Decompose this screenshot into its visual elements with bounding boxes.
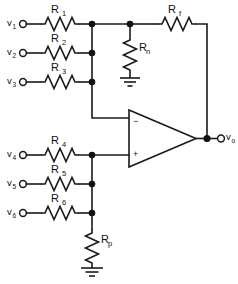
input-branch-v3: R 3 v 3 xyxy=(7,61,92,89)
junction-dot-output xyxy=(203,135,210,142)
resistor-label-r6: R xyxy=(51,192,59,204)
resistor-label-r4: R xyxy=(51,134,59,146)
input-sublabel-v6: 6 xyxy=(13,212,17,219)
output-sublabel: o xyxy=(232,137,236,144)
input-label-v4: v xyxy=(7,148,12,159)
component-rn: R n xyxy=(120,21,150,86)
input-sublabel-v4: 4 xyxy=(13,154,17,161)
input-sublabel-v2: 2 xyxy=(13,52,17,59)
junction-dot-v2 xyxy=(89,50,96,57)
resistor-label-r5: R xyxy=(51,163,59,175)
resistor-label-r1: R xyxy=(51,3,59,15)
resistor-label-rf: R xyxy=(168,3,176,15)
resistor-r1 xyxy=(41,18,79,31)
input-label-v1: v xyxy=(7,17,12,28)
input-label-v5: v xyxy=(7,177,12,188)
input-sublabel-v3: 3 xyxy=(13,81,17,88)
resistor-sublabel-r4: 4 xyxy=(62,140,66,149)
op-amp-inverting-sign: − xyxy=(133,116,138,126)
input-sublabel-v5: 5 xyxy=(13,183,17,190)
resistor-sublabel-rf: f xyxy=(179,9,182,18)
resistor-sublabel-r1: 1 xyxy=(62,9,66,18)
junction-dot-v6 xyxy=(89,210,96,217)
input-terminal-v6[interactable] xyxy=(20,210,27,217)
op-amp[interactable]: − + xyxy=(129,110,196,167)
resistor-label-r2: R xyxy=(51,32,59,44)
ground-rn xyxy=(120,78,140,86)
output-terminal[interactable] xyxy=(218,135,225,142)
input-branch-v4: R 4 v 4 xyxy=(7,134,129,162)
resistor-r2 xyxy=(41,47,79,60)
input-terminal-v4[interactable] xyxy=(20,152,27,159)
resistor-sublabel-r2: 2 xyxy=(62,38,66,47)
input-sublabel-v1: 1 xyxy=(13,23,17,30)
resistor-rn xyxy=(124,27,137,78)
resistor-r6 xyxy=(41,207,79,220)
junction-dot-v4 xyxy=(89,152,96,159)
circuit-diagram: R 1 v 1 R 2 v 2 R 3 v 3 xyxy=(0,0,238,284)
junction-dot-v1 xyxy=(89,21,96,28)
input-label-v3: v xyxy=(7,75,12,86)
resistor-rp xyxy=(86,229,99,268)
resistor-sublabel-rp: p xyxy=(108,239,112,248)
op-amp-triangle[interactable] xyxy=(129,110,196,167)
ground-rp xyxy=(81,268,103,276)
input-terminal-v2[interactable] xyxy=(20,50,27,57)
input-branch-v1: R 1 v 1 xyxy=(7,3,92,31)
junction-dot-v3 xyxy=(89,79,96,86)
circuit-canvas: R 1 v 1 R 2 v 2 R 3 v 3 xyxy=(0,0,238,284)
junction-dot-v5 xyxy=(89,181,96,188)
input-branch-v2: R 2 v 2 xyxy=(7,32,92,60)
input-terminal-v1[interactable] xyxy=(20,21,27,28)
resistor-rf xyxy=(158,18,196,31)
input-terminal-v3[interactable] xyxy=(20,79,27,86)
resistor-sublabel-r5: 5 xyxy=(62,169,66,178)
resistor-r3 xyxy=(41,76,79,89)
resistor-sublabel-rn: n xyxy=(146,47,150,56)
input-label-v6: v xyxy=(7,206,12,217)
resistor-sublabel-r6: 6 xyxy=(62,198,66,207)
op-amp-noninverting-sign: + xyxy=(133,149,138,159)
wire-rf-to-output xyxy=(196,24,207,138)
resistor-r5 xyxy=(41,178,79,191)
component-rp: R p xyxy=(81,229,112,276)
input-branch-v5: R 5 v 5 xyxy=(7,163,92,191)
input-label-v2: v xyxy=(7,46,12,57)
resistor-sublabel-r3: 3 xyxy=(62,67,66,76)
inverting-summing-rail xyxy=(92,24,129,118)
output-branch: v o xyxy=(196,131,236,144)
resistor-label-r3: R xyxy=(51,61,59,73)
input-terminal-v5[interactable] xyxy=(20,181,27,188)
output-label: v xyxy=(226,131,231,142)
resistor-r4 xyxy=(41,149,79,162)
input-branch-v6: R 6 v 6 xyxy=(7,192,92,220)
